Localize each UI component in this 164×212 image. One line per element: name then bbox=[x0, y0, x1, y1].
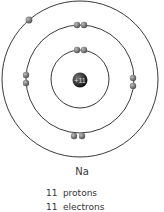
bohr-atom-diagram: +11 bbox=[0, 0, 164, 160]
electrons-label: electrons bbox=[63, 202, 104, 212]
nucleus-charge: +11 bbox=[74, 77, 85, 84]
nucleus: +11 bbox=[73, 73, 88, 88]
electrons-count: 11 electrons bbox=[46, 202, 104, 212]
element-symbol: Na bbox=[0, 166, 164, 177]
protons-label: protons bbox=[63, 188, 97, 198]
shell-3-electrons bbox=[26, 17, 33, 24]
protons-value: 11 bbox=[46, 188, 60, 198]
protons-count: 11 protons bbox=[46, 188, 97, 198]
electrons-value: 11 bbox=[46, 202, 60, 212]
